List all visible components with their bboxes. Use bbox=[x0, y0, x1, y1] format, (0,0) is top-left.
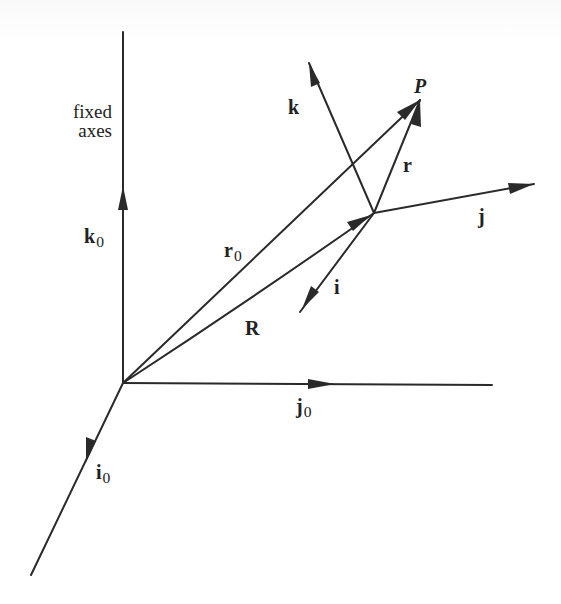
label-r0: r0 bbox=[224, 240, 242, 260]
reference-frames-diagram: fixed axes k0 j0 i0 r0 R r k j i P bbox=[0, 0, 561, 604]
k-arrowhead-icon bbox=[309, 63, 320, 87]
j0-arrowhead-icon bbox=[308, 379, 335, 389]
j-arrowhead-icon bbox=[508, 183, 534, 194]
moving-axis-k bbox=[309, 63, 374, 213]
fixed-axis-j0 bbox=[123, 379, 492, 389]
label-r0-symbol: r bbox=[224, 239, 233, 261]
label-r0-subscript: 0 bbox=[234, 247, 242, 264]
k0-arrowhead-icon bbox=[118, 186, 128, 210]
vector-r0 bbox=[123, 100, 420, 383]
label-k0-symbol: k bbox=[84, 225, 95, 247]
label-i0-symbol: i bbox=[96, 461, 102, 483]
label-i0-subscript: 0 bbox=[103, 469, 111, 486]
label-i: i bbox=[334, 277, 340, 297]
label-j0-subscript: 0 bbox=[304, 403, 312, 420]
label-k0: k0 bbox=[84, 226, 104, 246]
label-point-P: P bbox=[414, 76, 426, 96]
moving-axis-j bbox=[374, 183, 534, 213]
label-R: R bbox=[245, 318, 259, 338]
diagram-canvas bbox=[0, 0, 561, 604]
label-j: j bbox=[478, 206, 485, 226]
fixed-axes-caption: fixed axes bbox=[58, 102, 112, 140]
fixed-axis-k0 bbox=[118, 32, 128, 383]
label-k0-subscript: 0 bbox=[96, 233, 104, 250]
i0-arrowhead-icon bbox=[86, 437, 96, 462]
vector-R bbox=[123, 213, 374, 383]
label-i0: i0 bbox=[96, 462, 110, 482]
vector-r bbox=[374, 100, 421, 213]
label-j0-symbol: j bbox=[296, 395, 303, 417]
label-j0: j0 bbox=[296, 396, 311, 416]
label-k: k bbox=[288, 97, 299, 117]
label-r: r bbox=[403, 155, 412, 175]
caption-line-axes: axes bbox=[58, 121, 112, 140]
caption-line-fixed: fixed bbox=[58, 102, 112, 121]
